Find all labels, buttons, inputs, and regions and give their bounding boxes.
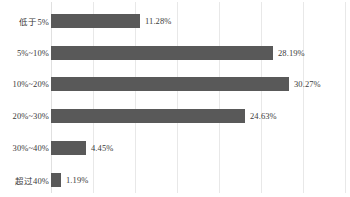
bar — [51, 14, 140, 28]
data-label: 28.19% — [278, 48, 305, 58]
category-label: 10%~20% — [0, 79, 49, 89]
data-label: 24.63% — [250, 111, 277, 121]
table-row: 超过40% 1.19% — [0, 164, 350, 196]
table-row: 低于5% 11.28% — [0, 5, 350, 37]
table-row: 5%~10% 28.19% — [0, 37, 350, 69]
table-row: 30%~40% 4.45% — [0, 132, 350, 164]
category-label: 5%~10% — [0, 48, 49, 58]
table-row: 10%~20% 30.27% — [0, 69, 350, 101]
bar — [51, 141, 86, 155]
category-label: 超过40% — [0, 174, 49, 186]
category-label: 低于5% — [0, 15, 49, 27]
data-label: 30.27% — [294, 79, 321, 89]
bar — [51, 77, 289, 91]
bar — [51, 173, 61, 187]
data-label: 1.19% — [66, 175, 88, 185]
bar — [51, 46, 273, 60]
data-label: 4.45% — [91, 143, 113, 153]
bar-rows: 低于5% 11.28% 5%~10% 28.19% 10%~20% 30.27%… — [0, 0, 350, 197]
bar-group: 28.19% — [51, 46, 305, 60]
data-label: 11.28% — [145, 16, 172, 26]
category-label: 30%~40% — [0, 143, 49, 153]
table-row: 20%~30% 24.63% — [0, 100, 350, 132]
horizontal-bar-chart: 低于5% 11.28% 5%~10% 28.19% 10%~20% 30.27%… — [0, 0, 350, 197]
bar-group: 30.27% — [51, 77, 321, 91]
bar-group: 24.63% — [51, 109, 277, 123]
category-label: 20%~30% — [0, 111, 49, 121]
bar-group: 1.19% — [51, 173, 88, 187]
bar — [51, 109, 245, 123]
bar-group: 4.45% — [51, 141, 113, 155]
bar-group: 11.28% — [51, 14, 172, 28]
